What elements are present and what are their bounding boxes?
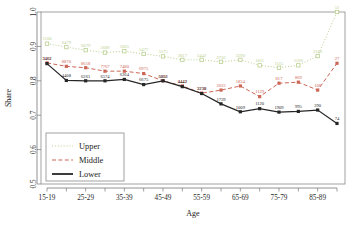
data-point-marker [277,66,280,69]
data-point-label: 6479 [62,40,72,45]
y-axis-title: Share [4,88,13,107]
data-point-marker [84,66,87,69]
data-point-label: 817 [276,76,284,81]
data-point-marker [45,42,48,45]
data-point-marker [84,48,87,51]
data-point-label: 5852 [158,74,168,79]
data-point-label: 5477 [139,47,149,52]
data-point-label: 106 [314,83,322,88]
data-point-label: 4408 [62,73,72,78]
data-point-label: 7480 [120,64,130,69]
data-point-marker [200,58,203,61]
data-point-label: 2622 [216,83,226,88]
data-point-label: 4442 [178,79,188,84]
data-point-label: 1596 [294,58,304,63]
x-axis-tick-label: 35-39 [116,194,133,202]
data-point-label: 6364 [120,72,130,77]
data-point-marker [142,72,145,75]
data-point-label: 51 [335,5,340,10]
data-point-label: 6574 [100,74,110,79]
data-point-marker [161,79,164,82]
x-axis-tick-label: 85-89 [309,194,326,202]
data-point-marker [84,79,87,82]
data-point-label: 1739 [216,97,226,102]
y-axis-tick-label: 0.6 [30,145,38,154]
y-axis-tick-label: 0.8 [30,76,38,85]
x-axis-tick-label: 15-19 [39,194,56,202]
x-axis-tick-label: 45-49 [155,194,172,202]
data-point-label: 5575 [158,49,168,54]
line-chart-canvas: 0.50.60.70.80.91.0Share15-1925-2935-3945… [0,0,354,226]
data-point-label: 995 [295,104,303,109]
x-axis-tick-label: 65-69 [232,194,249,202]
x-axis-tick-label: 75-79 [271,194,288,202]
data-point-label: 8870 [62,59,72,64]
data-point-label: 74 [335,116,340,121]
legend-label-upper: Upper [79,142,100,151]
data-point-marker [335,10,338,13]
data-point-label: 2817 [178,53,188,58]
data-point-label: 8618 [81,61,91,66]
data-point-marker [103,51,106,54]
data-point-marker [219,60,222,63]
series-line [47,64,337,124]
y-axis-tick-label: 0.9 [30,42,38,51]
x-axis-tick-label: 55-59 [193,194,210,202]
data-point-marker [316,88,319,91]
x-axis-title: Age [186,209,200,218]
data-point-marker [258,64,261,67]
data-point-label: 6079 [81,43,91,48]
data-point-marker [239,58,242,61]
data-point-marker [65,65,68,68]
data-point-label: 3238 [197,86,207,91]
chart-figure: 0.50.60.70.80.91.0Share15-1925-2935-3945… [0,0,354,226]
data-point-label: 3462 [42,56,52,61]
data-point-label: 1011 [255,58,265,63]
data-point-label: 7767 [100,64,110,69]
y-axis-tick-label: 0.7 [30,110,38,119]
data-point-label: 6975 [139,66,149,71]
data-point-marker [316,54,319,57]
data-point-label: 290 [314,103,322,108]
data-point-marker [65,45,68,48]
data-point-label: 1129 [255,89,265,94]
data-point-marker [142,83,145,86]
data-point-marker [219,102,222,105]
data-point-marker [65,79,68,82]
data-point-marker [103,79,106,82]
series-line [47,63,337,97]
data-point-marker [123,50,126,53]
data-point-label: 1100 [42,36,52,41]
data-point-label: 1009 [236,105,246,110]
data-point-marker [239,110,242,113]
y-axis-tick-label: 0.5 [30,179,38,188]
y-axis-tick-label: 1.0 [30,7,38,16]
x-axis-tick-label: 25-29 [77,194,94,202]
data-point-label: 2290 [236,53,246,58]
data-point-label: 5689 [100,45,110,50]
data-point-marker [219,88,222,91]
data-point-marker [335,62,338,65]
data-point-label: 2442 [197,53,207,58]
data-point-marker [335,122,338,125]
data-point-label: 1909 [274,105,284,110]
data-point-label: 1115 [275,61,285,66]
data-point-label: 5605 [120,44,130,49]
data-point-marker [181,85,184,88]
data-point-marker [239,84,242,87]
data-point-label: 2756 [216,55,226,60]
data-point-label: 6261 [81,74,91,79]
legend-label-lower: Lower [79,170,101,179]
legend-label-middle: Middle [79,156,103,165]
data-point-marker [181,58,184,61]
data-point-marker [103,70,106,73]
data-point-marker [258,107,261,110]
data-point-label: 869 [295,75,303,80]
data-point-marker [161,55,164,58]
data-point-marker [45,62,48,65]
data-point-marker [258,95,261,98]
data-point-marker [123,78,126,81]
data-point-label: 1120 [255,101,265,106]
data-point-marker [142,52,145,55]
data-point-marker [200,92,203,95]
